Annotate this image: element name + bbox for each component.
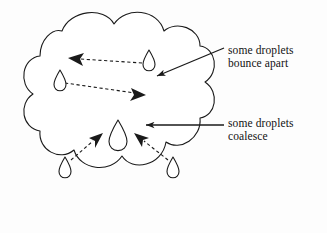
label-bounce-apart: some droplets bounce apart: [228, 44, 294, 70]
figure-canvas: some droplets bounce apart some droplets…: [0, 0, 327, 233]
label-coalesce: some droplets coalesce: [228, 117, 294, 143]
label-bounce-line2: bounce apart: [228, 57, 294, 70]
label-coalesce-line2: coalesce: [228, 130, 294, 143]
label-bounce-line1: some droplets: [228, 44, 294, 57]
droplet-coalesce-lower-right: [167, 157, 179, 178]
label-coalesce-line1: some droplets: [228, 117, 294, 130]
droplet-coalesce-lower-left: [59, 157, 71, 178]
